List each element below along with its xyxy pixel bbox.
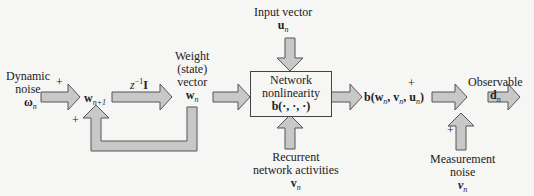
omega-n-symbol: ωn: [24, 96, 37, 113]
recurrent-activities-label: Recurrent network activities vn: [253, 151, 339, 194]
dynamic-noise-label: Dynamic noise: [6, 70, 50, 96]
feedback-loop-arrow: [83, 105, 197, 151]
nonlinearity-output-expression: b(wn, vn, un): [364, 91, 424, 108]
measurement-noise-label: Measurement noise νn: [430, 153, 495, 196]
weight-state-vector-label: Weight (state) vector wn: [175, 50, 209, 106]
w-n-plus-1-symbol: wn+1: [84, 92, 106, 109]
delay-operator: z−1I: [130, 75, 148, 92]
plus-sign: +: [72, 114, 79, 127]
plus-sign: +: [408, 77, 415, 90]
recurrent-arrow: [277, 115, 303, 149]
state-space-diagram: Dynamic noise ωn + + wn+1 z−1I Weight (s…: [0, 0, 534, 196]
plus-sign: +: [447, 124, 454, 137]
input-arrow: [277, 38, 303, 71]
to-observable-arrow: [432, 84, 467, 110]
network-nonlinearity-label: Network nonlinearity b(·, ·, ·): [251, 74, 331, 113]
observable-label: Observable dn: [468, 76, 523, 106]
plus-sign: +: [56, 76, 63, 89]
input-vector-label: Input vector un: [254, 6, 312, 36]
box-output-arrow: [331, 84, 362, 110]
weight-to-box-arrow: [213, 84, 250, 110]
